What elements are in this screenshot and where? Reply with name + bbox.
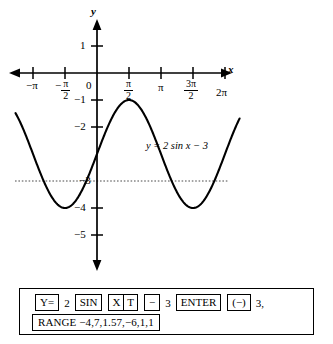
sine-curve: [16, 100, 240, 208]
y-tick-label-neg-1: −1: [74, 94, 86, 105]
x-axis-label: x: [228, 64, 234, 75]
calc-key-range-settings[interactable]: RANGE −4,7,1.57,−6,1,1: [32, 314, 160, 331]
x-tick-label-zero: 0: [86, 80, 92, 91]
calc-key-[interactable]: (−): [227, 294, 251, 311]
calc-key-y[interactable]: Y=: [35, 294, 59, 311]
calc-key-enter[interactable]: ENTER: [176, 294, 221, 311]
x-tick-label-2pi: 2π: [216, 87, 227, 98]
fraction: π 2: [61, 79, 70, 101]
keystroke-row-1: Y=2SINXT−3ENTER(−)3,: [32, 294, 307, 311]
y-axis-arrow-up: [93, 19, 102, 30]
calc-key-sin[interactable]: SIN: [75, 294, 103, 311]
y-tick-label-1: 1: [80, 40, 86, 51]
fraction: 3π 2: [184, 79, 198, 101]
calc-key-x[interactable]: X: [109, 295, 124, 310]
x-tick-label-neg-pi-over-2: − π 2: [55, 79, 70, 101]
calc-entry-value: 2: [64, 296, 70, 310]
fraction: π 2: [124, 79, 133, 101]
calc-key-x-t[interactable]: XT: [108, 294, 138, 311]
x-axis-arrow-left: [9, 69, 20, 78]
y-tick-label-neg-5: −5: [74, 229, 86, 240]
y-axis-arrow-down: [93, 260, 102, 271]
y-tick-label-neg-3: −3: [79, 175, 91, 186]
equation-annotation: y = 2 sin x − 3: [146, 140, 208, 151]
y-tick-label-neg-4: −4: [74, 202, 86, 213]
x-tick-label-pi: π: [158, 82, 164, 93]
x-tick-label-pi-over-2: π 2: [124, 79, 133, 101]
figure-root: y x −π − π 2 0 π 2 π 3π 2 2π: [0, 0, 333, 344]
y-tick-label-neg-2: −2: [74, 121, 86, 132]
coordinate-plot: [0, 0, 333, 278]
calc-key-[interactable]: −: [144, 294, 160, 311]
x-tick-label-3pi-over-2: 3π 2: [184, 79, 198, 101]
y-axis-label: y: [91, 6, 96, 17]
x-tick-label-neg-pi: −π: [26, 80, 38, 91]
calc-key-t[interactable]: T: [124, 295, 137, 310]
keystroke-row-2: RANGE −4,7,1.57,−6,1,1: [32, 314, 307, 331]
calc-entry-value: 3: [165, 296, 171, 310]
calculator-keystrokes-panel: Y=2SINXT−3ENTER(−)3, RANGE −4,7,1.57,−6,…: [19, 288, 314, 335]
graph-area: y x −π − π 2 0 π 2 π 3π 2 2π: [0, 0, 333, 278]
calc-entry-value: 3,: [256, 296, 264, 310]
